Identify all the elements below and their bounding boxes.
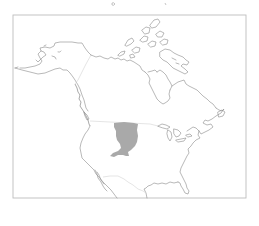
ungava-labrador-coast (172, 80, 216, 108)
arctic-islands (118, 19, 168, 58)
st-lawrence (187, 127, 199, 131)
great-lakes (158, 124, 192, 142)
maritimes-coast (199, 108, 224, 134)
arctic-speck (112, 3, 115, 6)
us-west-coast (80, 126, 117, 198)
baja-california (95, 170, 107, 191)
map-frame (13, 15, 246, 198)
baffin-island (160, 49, 189, 74)
canada-arctic-coast (91, 55, 145, 72)
us-mexico-border (103, 176, 146, 193)
hudson-strait-north (148, 70, 157, 72)
gulf-coast (144, 182, 178, 198)
alaska-canada-border (75, 55, 91, 84)
alaska-west-coast (20, 51, 42, 68)
baffin-inlets (172, 58, 179, 64)
species-range-area (110, 122, 138, 157)
us-east-coast (178, 131, 200, 194)
arctic-speck (165, 3, 166, 5)
range-map (0, 0, 259, 226)
hudson-bay-coast (145, 70, 172, 104)
